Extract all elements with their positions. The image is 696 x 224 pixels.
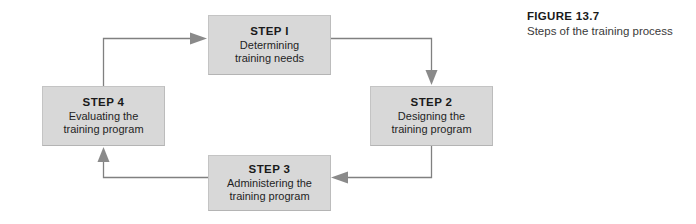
step-3-title: STEP 3 [249,163,291,177]
step-box-3[interactable]: STEP 3 Administering the training progra… [208,155,331,211]
step-2-title: STEP 2 [411,96,453,110]
step-1-title: STEP I [250,25,289,39]
connector-step1-to-step2 [331,39,438,86]
step-4-title: STEP 4 [83,96,125,110]
connector-step4-to-step1 [104,33,208,87]
step-3-line-2: training program [229,190,309,203]
connector-step3-to-step4 [98,147,209,178]
step-4-line-1: Evaluating the [69,110,139,123]
step-3-line-1: Administering the [227,177,312,190]
step-box-2[interactable]: STEP 2 Designing the training program [370,86,493,146]
step-1-line-2: training needs [235,52,304,65]
connector-step2-to-step3 [331,146,432,184]
figure-description: Steps of the training process [527,24,693,38]
step-1-line-1: Determining [240,39,299,52]
step-2-line-2: training program [391,123,471,136]
step-box-1[interactable]: STEP I Determining training needs [208,15,331,75]
step-2-line-1: Designing the [398,110,465,123]
figure-caption: FIGURE 13.7 Steps of the training proces… [527,10,693,38]
figure-number: FIGURE 13.7 [527,10,693,22]
step-box-4[interactable]: STEP 4 Evaluating the training program [42,86,165,146]
step-4-line-2: training program [63,123,143,136]
